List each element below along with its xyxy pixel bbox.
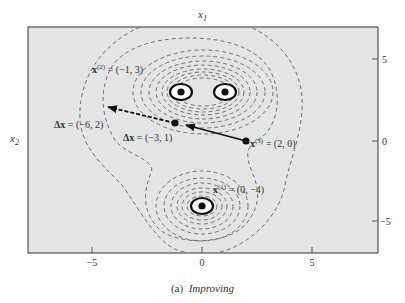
xtick-label-minus5: −5 [87,257,98,268]
point-x3 [242,137,249,144]
ytick-label-0: 0 [382,136,387,147]
xtick-label-5: 5 [310,257,315,268]
caption-prefix: (a) [171,282,183,294]
contour-figure: −5 0 5 5 0 −5 x1 x2 x(2) = (−1, 3) x(3) … [0,0,405,303]
minimum-marker-top-left [170,84,192,100]
minimum-marker-top-right [214,84,236,100]
x1-axis-label: x1 [197,8,207,23]
ytick-label-5: 5 [382,54,387,65]
ytick-label-minus5: −5 [380,216,391,227]
figure-caption: (a) Improving [0,282,405,294]
point-step-small [171,119,178,126]
annotation-dx-small: Δx = (−3, 1) [123,132,172,144]
x2-axis-label: x2 [9,132,19,147]
minimum-marker-bottom [191,198,213,214]
caption-label: Improving [189,282,234,294]
annotation-dx-large: Δx = (−6, 2) [54,119,103,131]
xtick-label-0: 0 [200,257,205,268]
